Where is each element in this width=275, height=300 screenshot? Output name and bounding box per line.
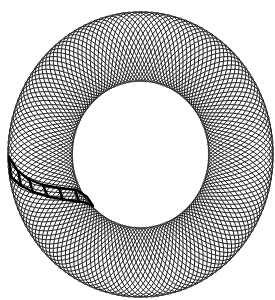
lattice-curve <box>12 16 270 293</box>
torus-lattice-diagram <box>0 0 275 300</box>
lattice-curve <box>24 12 258 298</box>
ring-lattice-curves <box>8 12 274 298</box>
lattice-curve <box>8 29 274 281</box>
lattice-curve <box>12 16 270 293</box>
